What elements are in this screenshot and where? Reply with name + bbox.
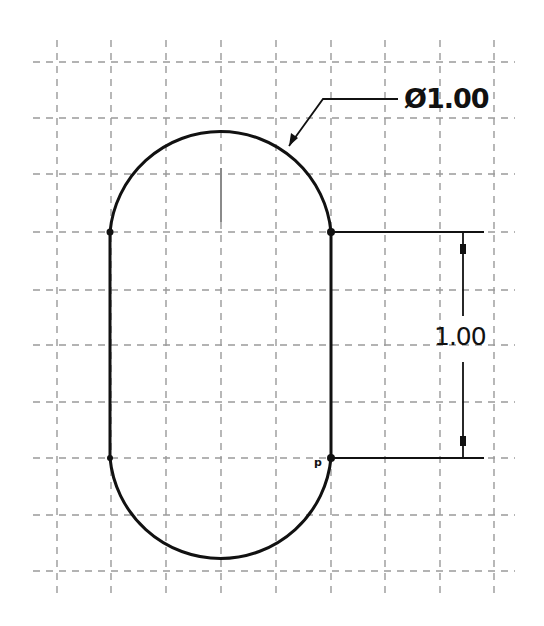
arrow-top-icon bbox=[460, 244, 466, 254]
endpoint-bottom-left[interactable] bbox=[107, 455, 113, 461]
diameter-dimension-label[interactable]: Ø1.00 bbox=[404, 83, 489, 114]
sketch-grid bbox=[33, 40, 515, 595]
diameter-dimension-leader[interactable] bbox=[289, 99, 398, 146]
endpoint-top-left[interactable] bbox=[107, 229, 114, 236]
length-dimension-label[interactable]: 1.00 bbox=[434, 322, 486, 351]
relation-marker-icon: p bbox=[314, 456, 322, 469]
arrow-bottom-icon bbox=[460, 436, 466, 446]
